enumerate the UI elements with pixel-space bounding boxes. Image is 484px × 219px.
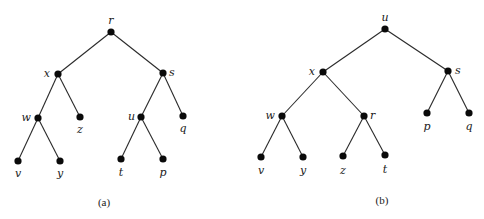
edge-x-w	[38, 74, 58, 118]
node-label-p: p	[423, 120, 430, 133]
edge-u-p	[141, 117, 163, 159]
edge-r-x	[58, 32, 111, 74]
node-t	[117, 155, 124, 162]
tree-diagram-canvas: rxswzuqvytp(a) uxswrpqvyzt(b)	[0, 0, 484, 219]
node-r	[360, 112, 367, 119]
node-z	[339, 152, 346, 159]
edge-s-u	[141, 73, 163, 117]
node-t	[381, 151, 388, 158]
node-label-s: s	[455, 64, 461, 77]
node-label-z: z	[339, 164, 346, 177]
node-w	[34, 114, 41, 121]
edge-x-w	[282, 72, 323, 116]
edge-r-s	[111, 32, 163, 73]
node-label-t: t	[383, 163, 388, 176]
node-label-u: u	[381, 11, 388, 24]
edge-s-q	[163, 73, 183, 116]
edge-u-s	[385, 29, 448, 71]
caption-b: (b)	[376, 194, 389, 207]
node-label-q: q	[179, 122, 186, 135]
node-x	[54, 70, 61, 77]
edge-u-t	[121, 117, 141, 159]
edge-s-q	[448, 71, 469, 113]
node-x	[319, 68, 326, 75]
edge-s-p	[427, 71, 448, 113]
node-label-u: u	[128, 110, 135, 123]
node-label-q: q	[465, 120, 472, 133]
edge-r-z	[343, 116, 364, 156]
node-label-y: y	[299, 164, 307, 177]
node-q	[179, 112, 186, 119]
node-label-p: p	[159, 166, 166, 179]
node-y	[56, 157, 63, 164]
node-s	[444, 67, 451, 74]
node-label-z: z	[76, 123, 83, 136]
node-label-x: x	[44, 67, 51, 80]
node-u	[137, 113, 144, 120]
node-p	[159, 155, 166, 162]
node-label-y: y	[56, 167, 64, 180]
edge-u-x	[323, 29, 385, 72]
node-v	[14, 157, 21, 164]
node-u	[381, 25, 388, 32]
edge-w-v	[18, 118, 38, 161]
edge-w-y	[38, 118, 60, 161]
node-w	[278, 112, 285, 119]
edge-w-y	[282, 116, 303, 157]
node-label-r: r	[370, 109, 376, 122]
tree-b: uxswrpqvyzt(b)	[257, 11, 472, 207]
node-y	[299, 153, 306, 160]
node-q	[465, 109, 472, 116]
node-label-v: v	[15, 167, 22, 180]
node-label-r: r	[108, 14, 114, 27]
node-r	[107, 28, 114, 35]
caption-a: (a)	[98, 196, 111, 209]
node-label-x: x	[309, 65, 316, 78]
edge-w-v	[261, 116, 282, 157]
node-v	[257, 153, 264, 160]
node-label-t: t	[119, 166, 124, 179]
node-z	[76, 113, 83, 120]
node-label-v: v	[258, 164, 265, 177]
edge-x-r	[323, 72, 364, 116]
edge-x-z	[58, 74, 80, 117]
node-label-w: w	[22, 111, 32, 124]
node-label-w: w	[266, 109, 276, 122]
node-p	[423, 109, 430, 116]
node-label-s: s	[169, 66, 175, 79]
node-s	[159, 69, 166, 76]
tree-a: rxswzuqvytp(a)	[14, 14, 186, 209]
